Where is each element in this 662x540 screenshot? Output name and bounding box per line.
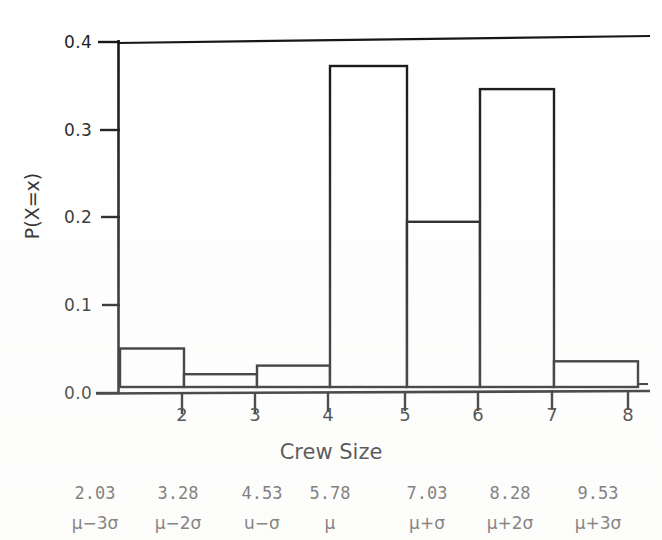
- sigma-values-row: 2.03 3.28 4.53 5.78 7.03 8.28 9.53: [0, 482, 662, 508]
- sigma-label-cell: μ+3σ: [554, 512, 642, 534]
- x-axis-tick-label: 7: [532, 404, 572, 426]
- figure-container: 0.0 0.1 0.2 0.3 0.4 P(X=x) 2 3 4 5 6 7 8…: [0, 0, 662, 540]
- x-axis-tick-label: 3: [235, 404, 275, 426]
- sigma-labels-row: μ−3σ μ−2σ u−σ μ μ+σ μ+2σ μ+3σ: [0, 512, 662, 538]
- bar-crew-2: [120, 349, 184, 388]
- sigma-value-cell: 5.78: [286, 482, 374, 504]
- bar-crew-6: [407, 222, 480, 387]
- sigma-value-cell: 8.28: [466, 482, 554, 504]
- x-axis-line: [96, 391, 650, 394]
- sigma-value-cell: 3.28: [134, 482, 222, 504]
- plot-frame-top: [118, 36, 650, 43]
- y-axis-tick-label: 0.3: [46, 122, 92, 139]
- x-axis-tick-label: 6: [458, 404, 498, 426]
- bar-crew-3: [184, 374, 257, 387]
- x-axis-tick-label: 8: [608, 404, 648, 426]
- bar-crew-5: [330, 66, 407, 387]
- y-axis-title: P(X=x): [21, 146, 43, 266]
- y-axis-tick-label: 0.2: [46, 209, 92, 226]
- bar-series: [120, 66, 638, 387]
- y-axis-tick-label: 0.1: [46, 297, 92, 314]
- bar-crew-8: [554, 361, 638, 387]
- x-axis-tick-label: 5: [385, 404, 425, 426]
- sigma-label-cell: μ+2σ: [466, 512, 554, 534]
- sigma-label-cell: μ−2σ: [134, 512, 222, 534]
- y-axis-tick-label: 0.0: [46, 385, 92, 402]
- x-axis-tick-label: 4: [308, 404, 348, 426]
- sigma-value-cell: 2.03: [51, 482, 139, 504]
- sigma-value-cell: 9.53: [554, 482, 642, 504]
- sigma-label-cell: μ−3σ: [51, 512, 139, 534]
- sigma-value-cell: 7.03: [383, 482, 471, 504]
- x-axis-title: Crew Size: [0, 440, 662, 464]
- bar-crew-7: [480, 89, 554, 387]
- sigma-label-cell: μ: [286, 512, 374, 534]
- y-axis-tick-label: 0.4: [46, 34, 92, 51]
- x-axis-tick-label: 2: [162, 404, 202, 426]
- sigma-label-cell: μ+σ: [383, 512, 471, 534]
- bar-crew-4: [257, 366, 330, 387]
- x-axis-tick-labels: 2 3 4 5 6 7 8: [0, 404, 662, 430]
- y-axis-ticks: [96, 42, 120, 393]
